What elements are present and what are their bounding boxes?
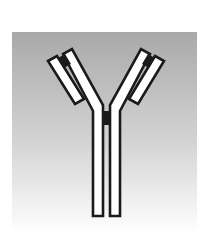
disulfide-bond-hinge — [103, 111, 110, 125]
antibody-diagram — [0, 0, 209, 241]
